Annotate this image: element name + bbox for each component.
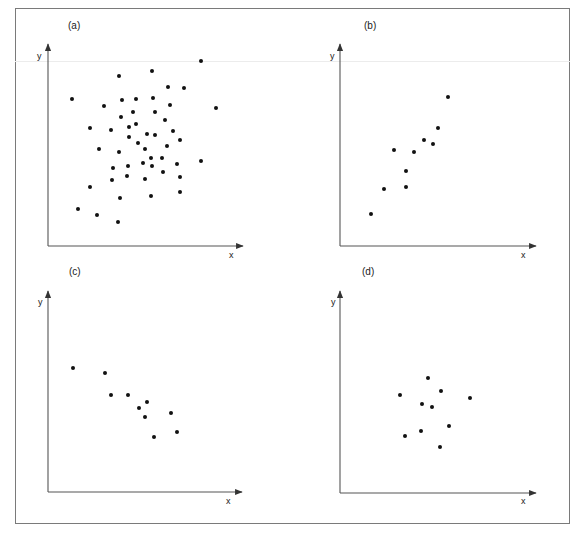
data-point xyxy=(199,159,203,163)
data-point xyxy=(137,406,141,410)
data-point xyxy=(119,115,123,119)
data-point xyxy=(214,106,218,110)
data-point xyxy=(97,147,101,151)
panel-b-points xyxy=(369,95,450,216)
data-point xyxy=(431,142,435,146)
data-point xyxy=(149,194,153,198)
panel-a-x-label: x xyxy=(229,250,234,260)
data-point xyxy=(439,389,443,393)
data-point xyxy=(422,138,426,142)
panel-d: (d) y x xyxy=(331,266,536,506)
data-point xyxy=(153,133,157,137)
panel-c-y-label: y xyxy=(38,297,43,307)
data-point xyxy=(404,169,408,173)
data-point xyxy=(118,196,122,200)
data-point xyxy=(111,166,115,170)
data-point xyxy=(71,366,75,370)
data-point xyxy=(182,86,186,90)
data-point xyxy=(136,141,140,145)
panel-a-y-label: y xyxy=(37,51,42,61)
data-point xyxy=(436,126,440,130)
panel-b-y-label: y xyxy=(330,51,335,61)
data-point xyxy=(76,207,80,211)
data-point xyxy=(109,393,113,397)
data-point xyxy=(116,220,120,224)
data-point xyxy=(171,129,175,133)
data-point xyxy=(419,429,423,433)
data-point xyxy=(88,185,92,189)
data-point xyxy=(446,95,450,99)
panel-a: (a) y x xyxy=(37,20,243,260)
data-point xyxy=(131,110,135,114)
panel-c: (c) y x xyxy=(38,266,242,506)
panel-d-label: (d) xyxy=(362,266,374,277)
data-point xyxy=(126,164,130,168)
data-point xyxy=(430,405,434,409)
data-point xyxy=(70,97,74,101)
data-point xyxy=(102,104,106,108)
data-point xyxy=(127,125,131,129)
panel-a-label: (a) xyxy=(68,20,80,31)
data-point xyxy=(166,85,170,89)
data-point xyxy=(127,135,131,139)
data-point xyxy=(426,376,430,380)
data-point xyxy=(175,162,179,166)
data-point xyxy=(438,445,442,449)
data-point xyxy=(420,402,424,406)
panel-c-label: (c) xyxy=(69,266,81,277)
data-point xyxy=(150,69,154,73)
data-point xyxy=(178,138,182,142)
panel-d-y-label: y xyxy=(331,297,336,307)
panel-d-points xyxy=(398,376,472,449)
data-point xyxy=(468,396,472,400)
data-point xyxy=(150,164,154,168)
data-point xyxy=(152,435,156,439)
data-point xyxy=(145,400,149,404)
data-point xyxy=(161,170,165,174)
panel-c-x-label: x xyxy=(226,496,231,506)
scatter-panels: (a) y x (b) y x (c) y x (d) xyxy=(0,0,582,540)
data-point xyxy=(169,411,173,415)
data-point xyxy=(120,98,124,102)
data-point xyxy=(403,434,407,438)
data-point xyxy=(125,174,129,178)
data-point xyxy=(149,156,153,160)
data-point xyxy=(392,148,396,152)
data-point xyxy=(117,150,121,154)
data-point xyxy=(141,161,145,165)
data-point xyxy=(126,393,130,397)
data-point xyxy=(175,430,179,434)
panel-b: (b) y x xyxy=(330,20,536,260)
panel-d-x-label: x xyxy=(521,496,526,506)
data-point xyxy=(178,175,182,179)
data-point xyxy=(143,415,147,419)
data-point xyxy=(103,371,107,375)
data-point xyxy=(143,147,147,151)
data-point xyxy=(404,185,408,189)
data-point xyxy=(412,150,416,154)
data-point xyxy=(143,177,147,181)
panel-a-points xyxy=(70,59,218,224)
panel-b-x-label: x xyxy=(521,250,526,260)
data-point xyxy=(95,213,99,217)
data-point xyxy=(134,122,138,126)
data-point xyxy=(163,118,167,122)
data-point xyxy=(199,59,203,63)
data-point xyxy=(168,103,172,107)
data-point xyxy=(110,178,114,182)
data-point xyxy=(134,97,138,101)
data-point xyxy=(153,110,157,114)
panel-c-points xyxy=(71,366,179,439)
data-point xyxy=(369,212,373,216)
data-point xyxy=(160,156,164,160)
data-point xyxy=(165,144,169,148)
data-point xyxy=(398,393,402,397)
data-point xyxy=(117,74,121,78)
data-point xyxy=(145,132,149,136)
data-point xyxy=(447,424,451,428)
data-point xyxy=(382,187,386,191)
data-point xyxy=(151,96,155,100)
scatter-figure: (a) y x (b) y x (c) y x (d) xyxy=(0,0,582,540)
data-point xyxy=(178,190,182,194)
panel-b-label: (b) xyxy=(364,20,376,31)
